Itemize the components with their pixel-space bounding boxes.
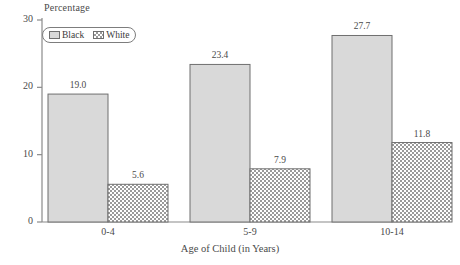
x-tick-label: 10-14 [332, 226, 452, 237]
bar-value-label: 11.8 [392, 129, 452, 139]
bar-chart: Percentage 0102030 0-45-910-14 19.05.623… [0, 0, 460, 265]
y-tick-label: 20 [7, 80, 33, 91]
bar-black-5-9 [190, 64, 250, 222]
legend-label-black: Black [62, 30, 84, 40]
legend-entry-white: White [93, 30, 129, 40]
legend-swatch-white-icon [93, 31, 104, 39]
y-tick-label: 10 [7, 148, 33, 159]
x-tick-label: 5-9 [190, 226, 310, 237]
bar-value-label: 27.7 [332, 21, 392, 31]
x-tick-label: 0-4 [48, 226, 168, 237]
bar-value-label: 23.4 [190, 50, 250, 60]
chart-legend: Black White [42, 27, 136, 43]
bar-black-10-14 [332, 35, 392, 222]
bar-white-5-9 [250, 169, 310, 222]
bar-white-0-4 [108, 184, 168, 222]
bar-value-label: 5.6 [108, 170, 168, 180]
legend-swatch-black-icon [49, 31, 60, 39]
bar-black-0-4 [48, 94, 108, 222]
legend-entry-black: Black [49, 30, 84, 40]
legend-label-white: White [106, 30, 129, 40]
bar-value-label: 19.0 [48, 80, 108, 90]
bar-white-10-14 [392, 143, 452, 222]
y-tick-label: 0 [7, 215, 33, 226]
x-axis-title: Age of Child (in Years) [0, 243, 460, 254]
y-tick-label: 30 [7, 13, 33, 24]
bar-value-label: 7.9 [250, 155, 310, 165]
